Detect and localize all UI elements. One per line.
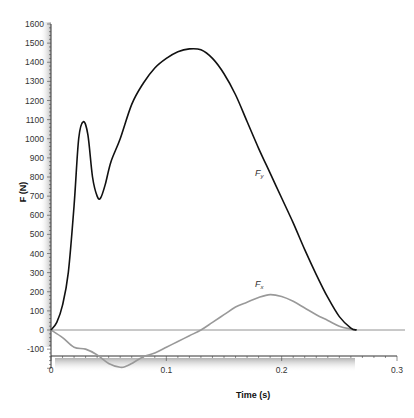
y-tick-label: 900	[30, 153, 44, 163]
x-axis-shadow	[55, 358, 355, 372]
x-axis-title: Time (s)	[236, 390, 270, 400]
fy-label: Fy	[255, 168, 265, 179]
y-tick-label: 1000	[25, 134, 44, 144]
fx-label: Fx	[255, 279, 265, 290]
fy-curve	[51, 49, 357, 330]
x-tick-label: 0.1	[160, 365, 172, 375]
y-tick-label: 700	[30, 191, 44, 201]
y-tick-label: 1500	[25, 38, 44, 48]
y-tick-label: 400	[30, 249, 44, 259]
y-tick-label: 800	[30, 172, 44, 182]
x-tick-label: 0.2	[276, 365, 288, 375]
y-tick-label: 200	[30, 287, 44, 297]
y-tick-label: 500	[30, 229, 44, 239]
y-tick-label: 1600	[25, 19, 44, 29]
y-axis-title: F (N)	[18, 182, 28, 203]
y-tick-label: 0	[39, 325, 44, 335]
y-tick-label: 100	[30, 306, 44, 316]
y-tick-label: 1100	[26, 115, 45, 125]
x-tick-label: 0	[49, 365, 54, 375]
y-tick-label: 1300	[25, 76, 44, 86]
y-tick-label: 1400	[25, 57, 44, 67]
y-tick-label: 1200	[25, 96, 44, 106]
x-tick-label: 0.3	[391, 365, 403, 375]
y-tick-label: 600	[30, 210, 44, 220]
y-tick-label: -100	[27, 344, 44, 354]
y-tick-label: 300	[30, 268, 44, 278]
force-time-chart: -100010020030040050060070080090010001100…	[0, 0, 414, 418]
